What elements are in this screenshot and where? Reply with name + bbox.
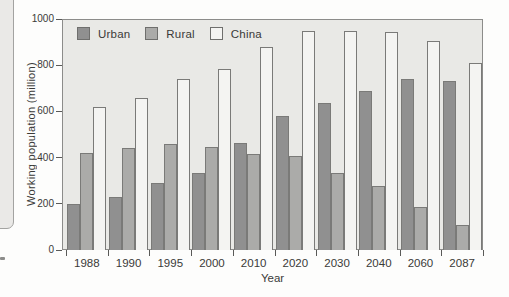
y-axis-title: Working population (million) [24,19,38,250]
bar-group-2040 [358,19,400,250]
urban-bar [109,197,122,250]
china-bar [302,31,315,250]
urban-bar [443,81,456,250]
x-tick-mark [275,250,276,256]
x-tick-label: 1995 [148,257,192,269]
x-tick-label: 2030 [315,257,359,269]
y-tick-mark [56,111,62,112]
bar-group-1988 [66,19,108,250]
bar-group-2010 [233,19,275,250]
china-bar [469,63,482,250]
rural-bar [414,207,427,250]
y-tick-label: 200 [16,198,54,210]
rural-bar [456,225,469,250]
y-tick-mark [56,19,62,20]
y-tick-mark [56,157,62,158]
rural-bar [164,144,177,250]
bar-group-2030 [316,19,358,250]
y-tick-label: 400 [16,152,54,164]
china-bar [260,47,273,250]
china-bar [135,98,148,250]
x-tick-label: 1990 [107,257,151,269]
rural-bar [122,148,135,250]
figure: Working population (million) Urban Rural… [0,0,509,297]
cropped-left-panel [0,0,14,229]
urban-bar [276,116,289,250]
bar-group-2020 [275,19,317,250]
y-tick-label: 800 [16,59,54,71]
china-bar [344,31,357,250]
urban-bar [192,173,205,250]
rural-bar [247,154,260,250]
x-tick-mark [108,250,109,256]
china-bar [427,41,440,250]
urban-bar [234,143,247,250]
x-tick-label: 2010 [232,257,276,269]
bar-group-2087 [441,19,483,250]
rural-bar [80,153,93,250]
bar-group-1990 [108,19,150,250]
x-tick-mark [483,250,484,256]
china-bar [177,79,190,250]
x-tick-label: 2020 [273,257,317,269]
y-tick-label: 1000 [16,13,54,25]
y-tick-mark [56,250,62,251]
bar-group-2060 [400,19,442,250]
x-tick-mark [233,250,234,256]
y-tick-mark [56,203,62,204]
bars-container [66,19,483,250]
x-tick-mark [191,250,192,256]
urban-bar [67,204,80,250]
x-tick-label: 2040 [357,257,401,269]
x-tick-mark [316,250,317,256]
cropped-text-fragment [0,257,5,260]
x-axis-title: Year [62,272,483,284]
urban-bar [318,103,331,250]
x-tick-label: 2087 [440,257,484,269]
x-tick-mark [400,250,401,256]
bar-group-2000 [191,19,233,250]
urban-bar [151,183,164,250]
urban-bar [359,91,372,250]
y-tick-label: 600 [16,105,54,117]
x-tick-mark [149,250,150,256]
x-tick-mark [66,250,67,256]
y-tick-label: 0 [16,244,54,256]
urban-bar [401,79,414,250]
china-bar [218,69,231,250]
china-bar [93,107,106,250]
rural-bar [331,173,344,250]
bar-group-1995 [149,19,191,250]
y-tick-mark [56,65,62,66]
china-bar [385,32,398,250]
x-tick-label: 2060 [398,257,442,269]
rural-bar [205,147,218,250]
x-tick-mark [358,250,359,256]
x-tick-label: 2000 [190,257,234,269]
rural-bar [372,186,385,250]
x-tick-label: 1988 [65,257,109,269]
rural-bar [289,156,302,250]
x-tick-mark [441,250,442,256]
